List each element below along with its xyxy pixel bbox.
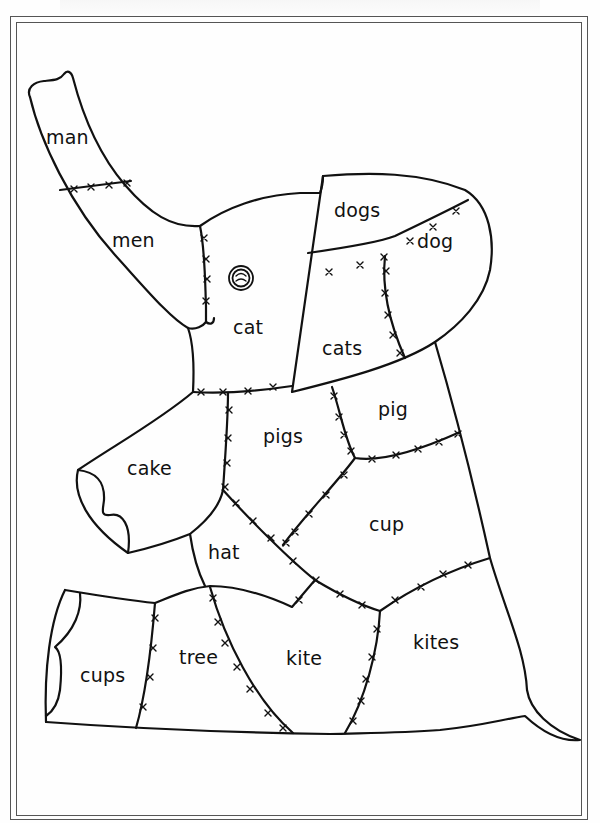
- patch-label-dogs: dogs: [334, 201, 380, 220]
- patch-label-cats: cats: [322, 339, 362, 358]
- stitch-tree-kite: [210, 587, 293, 733]
- hat-outline: [190, 534, 205, 586]
- patch-label-pigs: pigs: [263, 427, 303, 446]
- patch-label-man: man: [46, 128, 89, 147]
- worksheet-page: man men cat dogs dog cats pig pigs cake …: [0, 0, 600, 823]
- ear-stitch-vertical: [384, 256, 405, 358]
- patch-label-kite: kite: [286, 649, 322, 668]
- patch-label-cup: cup: [369, 515, 404, 534]
- elephant-eye-icon: [229, 266, 253, 290]
- patch-label-cups: cups: [80, 666, 125, 685]
- patch-label-tree: tree: [179, 648, 218, 667]
- trunk-outline: [29, 72, 206, 329]
- stitch-pigs-cup: [283, 458, 355, 545]
- head-outline: [200, 176, 323, 226]
- patch-label-pig: pig: [378, 400, 408, 419]
- back-foot-outline: [46, 590, 65, 722]
- back-leg-outline: [65, 580, 315, 607]
- neck-stitch: [193, 386, 292, 393]
- ear-outline: [292, 174, 492, 392]
- back-foot-pad: [46, 593, 80, 716]
- stitch-marks: [71, 180, 471, 731]
- patch-label-cake: cake: [127, 459, 172, 478]
- patch-label-cat: cat: [233, 318, 263, 337]
- stitch-kite-kites: [345, 611, 380, 733]
- patch-label-kites: kites: [413, 633, 459, 652]
- stitch-cup-kites: [380, 558, 490, 611]
- elephant-outline: [0, 0, 600, 823]
- patch-label-dog: dog: [417, 232, 453, 251]
- patch-label-hat: hat: [208, 543, 240, 562]
- stitch-hat-cup: [223, 490, 380, 611]
- patch-label-men: men: [112, 231, 155, 250]
- neck-outline: [188, 328, 193, 392]
